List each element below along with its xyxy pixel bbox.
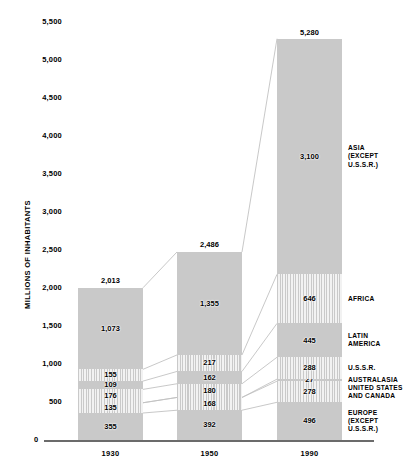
bar-1930: 3551351761091551,073 bbox=[78, 0, 143, 474]
bar-segment: 1,073 bbox=[78, 288, 143, 370]
x-axis-tick-1950: 1950 bbox=[177, 449, 242, 458]
bar-segment: 646 bbox=[277, 274, 342, 323]
segment-value-label: 278 bbox=[303, 388, 316, 396]
legend-item: EUROPE (EXCEPT U.S.S.R.) bbox=[348, 409, 378, 434]
bar-segment: 288 bbox=[277, 357, 342, 379]
segment-value-label: 168 bbox=[203, 400, 216, 408]
bar-segment: 168 bbox=[177, 397, 242, 410]
connector-line bbox=[242, 39, 277, 252]
x-axis-line bbox=[44, 440, 374, 442]
segment-value-label: 180 bbox=[203, 387, 216, 395]
segment-value-label: 646 bbox=[303, 295, 316, 303]
connector-line bbox=[143, 371, 177, 381]
bar-segment: 392 bbox=[177, 410, 242, 440]
connector-line bbox=[143, 252, 177, 288]
bar-segment: 355 bbox=[78, 413, 143, 440]
connector-line bbox=[143, 384, 177, 390]
segment-value-label: 217 bbox=[203, 359, 216, 367]
axis-zero-label: 0 bbox=[34, 435, 38, 444]
segment-value-label: 496 bbox=[303, 417, 316, 425]
bar-segment: 27 bbox=[277, 379, 342, 381]
bar-1990: 496278272884456463,100 bbox=[277, 0, 342, 474]
connector-line bbox=[242, 357, 277, 384]
bar-segment: 176 bbox=[78, 389, 143, 402]
connector-line bbox=[143, 355, 177, 369]
x-axis-tick-1990: 1990 bbox=[277, 449, 342, 458]
bar-segment: 278 bbox=[277, 381, 342, 402]
bar-segment: 109 bbox=[78, 381, 143, 389]
bar-segment: 1,355 bbox=[177, 252, 242, 355]
segment-value-label: 288 bbox=[303, 364, 316, 372]
segment-value-label: 162 bbox=[203, 374, 216, 382]
segment-value-label: 109 bbox=[104, 381, 117, 389]
bar-segment: 3,100 bbox=[277, 39, 342, 275]
population-stacked-bar-chart: MILLIONS OF INHABITANTS 5,5005,0004,5004… bbox=[0, 0, 412, 474]
segment-value-label: 3,100 bbox=[300, 153, 319, 161]
segment-value-label: 1,073 bbox=[101, 325, 120, 333]
legend-item: LATIN AMERICA bbox=[348, 332, 381, 348]
segment-value-label: 392 bbox=[203, 421, 216, 429]
connector-line bbox=[242, 274, 277, 355]
legend-item: UNITED STATES AND CANADA bbox=[348, 384, 403, 400]
bar-segment: 217 bbox=[177, 355, 242, 371]
legend-item: AFRICA bbox=[348, 295, 374, 303]
bar-segment: 162 bbox=[177, 371, 242, 383]
bar-segment: 180 bbox=[177, 384, 242, 398]
connector-line bbox=[242, 323, 277, 371]
segment-value-label: 445 bbox=[303, 337, 316, 345]
segment-value-label: 355 bbox=[104, 423, 117, 431]
segment-value-label: 176 bbox=[104, 392, 117, 400]
connector-line bbox=[143, 410, 177, 413]
connector-line bbox=[242, 402, 277, 410]
segment-value-label: 1,355 bbox=[200, 300, 219, 308]
legend-item: U.S.S.R. bbox=[348, 364, 376, 372]
connector-line bbox=[242, 379, 277, 397]
bar-segment: 445 bbox=[277, 323, 342, 357]
bar-segment: 135 bbox=[78, 403, 143, 413]
connector-line bbox=[143, 397, 177, 402]
bar-1950: 3921681801622171,355 bbox=[177, 0, 242, 474]
x-axis-tick-1930: 1930 bbox=[78, 449, 143, 458]
segment-value-label: 135 bbox=[104, 404, 117, 412]
bar-segment: 496 bbox=[277, 402, 342, 440]
bar-segment: 155 bbox=[78, 369, 143, 381]
legend-item: ASIA (EXCEPT U.S.S.R.) bbox=[348, 144, 378, 169]
segment-value-label: 155 bbox=[104, 371, 117, 379]
